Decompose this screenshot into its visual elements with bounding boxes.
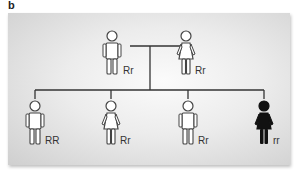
female-figure-icon: [177, 31, 195, 74]
child-3-male: Rr: [179, 101, 209, 146]
pedigree-lines: [35, 46, 264, 99]
pedigree-chart: Rr Rr RR Rr Rr rr: [0, 0, 297, 174]
genotype-label: rr: [273, 135, 280, 146]
genotype-label: Rr: [195, 65, 206, 76]
male-figure-icon: [179, 101, 197, 144]
affected-female-figure-icon: [255, 101, 273, 144]
genotype-label: RR: [45, 135, 59, 146]
parent-female: Rr: [177, 31, 206, 76]
genotype-label: Rr: [120, 135, 131, 146]
female-figure-icon: [102, 101, 120, 144]
male-figure-icon: [26, 101, 44, 144]
child-4-female-affected: rr: [255, 101, 280, 146]
child-1-male: RR: [26, 101, 59, 146]
genotype-label: Rr: [123, 65, 134, 76]
male-figure-icon: [103, 31, 121, 74]
child-2-female: Rr: [102, 101, 131, 146]
genotype-label: Rr: [198, 135, 209, 146]
parent-male: Rr: [103, 31, 134, 76]
